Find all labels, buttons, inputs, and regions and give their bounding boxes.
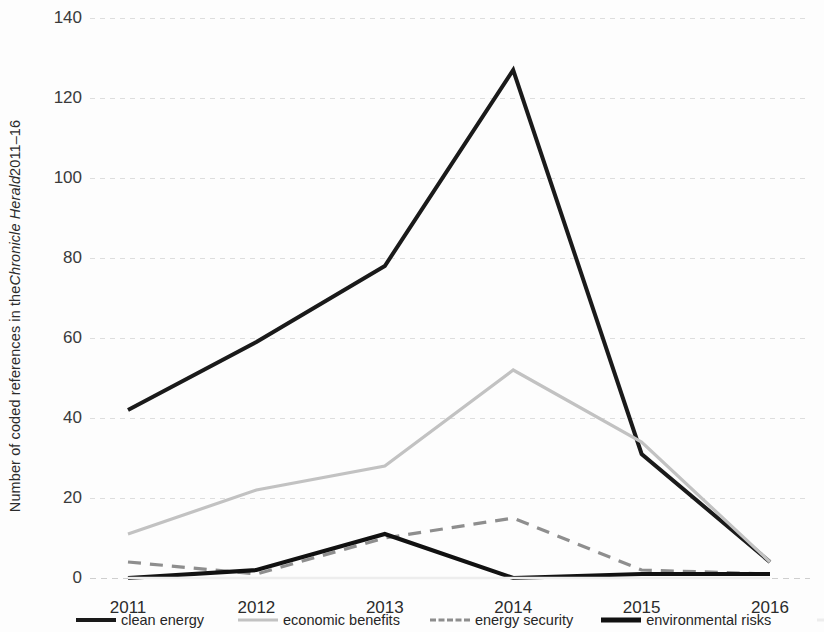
series-line-energy-security [128, 518, 770, 574]
y-tick-label: 100 [32, 168, 82, 188]
legend-item-energy-security[interactable]: energy security [430, 612, 573, 628]
legend-item-label: environmental risks [646, 612, 771, 628]
y-axis-title: Number of coded references in the Chroni… [0, 0, 30, 632]
legend-line-swatch-icon [238, 613, 278, 627]
series-line-clean-energy [128, 70, 770, 562]
plot-area: 0204060801001201402011201220132014201520… [90, 10, 810, 595]
legend-line-swatch-icon [601, 613, 641, 627]
legend-item-economic-benefits[interactable]: economic benefits [238, 612, 400, 628]
y-axis-title-post: 2011–16 [7, 120, 23, 176]
legend-item-label: clean energy [121, 612, 204, 628]
y-tick-label: 80 [32, 248, 82, 268]
legend-item-label: energy security [475, 612, 573, 628]
y-tick-label: 60 [32, 328, 82, 348]
y-axis-title-italic: Chronicle Herald [7, 176, 23, 286]
y-tick-label: 20 [32, 488, 82, 508]
legend-item-clean-energy[interactable]: clean energy [76, 612, 204, 628]
y-tick-label: 0 [32, 568, 82, 588]
series-lines [90, 10, 810, 595]
y-tick-label: 120 [32, 88, 82, 108]
chart-legend: clean energyeconomic benefitsenergy secu… [0, 608, 824, 632]
legend-line-swatch-icon [430, 613, 470, 627]
y-tick-label: 140 [32, 8, 82, 28]
legend-item-environmental-risks[interactable]: environmental risks [601, 612, 771, 628]
series-line-economic-benefits [128, 370, 770, 562]
y-tick-label: 40 [32, 408, 82, 428]
legend-item-fracking-is-safe[interactable]: fracking is safe [817, 612, 824, 628]
legend-line-swatch-icon [76, 613, 116, 627]
y-axis-title-pre: Number of coded references in the [7, 286, 23, 513]
legend-item-label: economic benefits [283, 612, 400, 628]
legend-line-swatch-icon [817, 613, 824, 627]
chart-figure: Number of coded references in the Chroni… [0, 0, 824, 632]
